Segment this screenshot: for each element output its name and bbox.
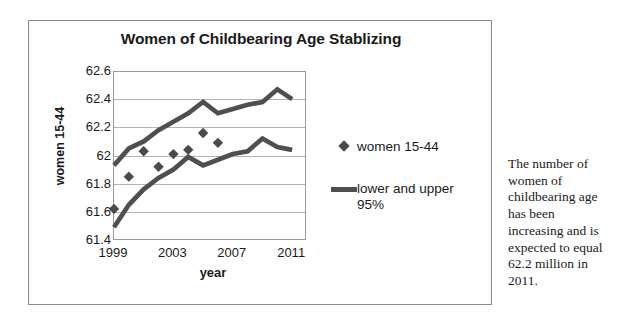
data-point-marker: [168, 149, 178, 159]
y-tick-label: 62.2: [69, 120, 111, 133]
y-axis-tick-labels: 62.662.462.26261.861.661.4: [65, 21, 111, 306]
x-tick-label: 2011: [271, 245, 311, 260]
y-tick-label: 62: [69, 149, 111, 162]
data-point-marker: [124, 171, 134, 181]
x-tick-label: 2003: [152, 245, 192, 260]
y-tick-label: 62.4: [69, 92, 111, 105]
y-tick-label: 61.8: [69, 177, 111, 190]
legend-item-band: lower and upper 95%: [331, 181, 481, 213]
line-marker-icon: [331, 181, 357, 192]
diamond-marker-icon: [331, 139, 357, 150]
series-overlay: [114, 71, 307, 240]
legend-item-series: women 15-44: [331, 139, 481, 155]
y-tick-label: 61.6: [69, 205, 111, 218]
legend-label-series: women 15-44: [357, 139, 439, 155]
x-tick-label: 2007: [212, 245, 252, 260]
y-tick-label: 62.6: [69, 64, 111, 77]
side-annotation-text: The number of women of childbearing age …: [508, 156, 612, 290]
legend-label-band: lower and upper 95%: [357, 181, 481, 213]
x-axis-tick-labels: 1999200320072011: [113, 245, 328, 263]
data-point-marker: [138, 146, 148, 156]
data-point-marker: [198, 128, 208, 138]
data-point-marker: [183, 145, 193, 155]
plot-area: [113, 71, 306, 240]
x-tick-label: 1999: [93, 245, 133, 260]
chart-frame: Women of Childbearing Age Stablizing wom…: [28, 20, 492, 305]
band-line: [114, 89, 292, 165]
x-axis-title: year: [113, 265, 313, 280]
data-point-marker: [213, 138, 223, 148]
chart-legend: women 15-44 lower and upper 95%: [331, 139, 481, 239]
data-point-marker: [153, 162, 163, 172]
